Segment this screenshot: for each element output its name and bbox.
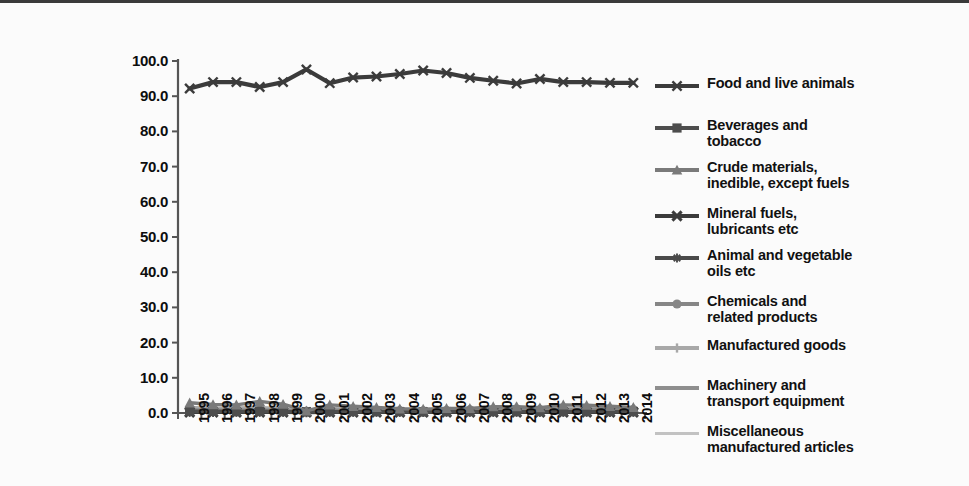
x-axis-tick-label: 2009 (523, 393, 539, 423)
legend-symbol (669, 341, 685, 355)
y-axis-tick-label: 0.0 (106, 404, 168, 421)
legend-label: Machinery and transport equipment (707, 377, 965, 409)
chart-figure: 100.090.080.070.060.050.040.030.020.010.… (0, 0, 969, 486)
legend-line-swatch (655, 432, 699, 435)
x-axis-tick-label: 2013 (616, 393, 632, 423)
x-axis-tick-label: 1997 (242, 393, 258, 423)
x-axis-tick-label: 2007 (476, 393, 492, 423)
y-axis-tick-label: 90.0 (106, 87, 168, 104)
legend-marker-icon (655, 78, 699, 94)
legend-marker-icon (655, 340, 699, 356)
chart-legend: Food and live animalsBeverages and tobac… (655, 55, 965, 455)
legend-item[interactable]: Mineral fuels, lubricants etc (655, 205, 965, 237)
x-axis-tick-label: 2011 (569, 394, 585, 423)
y-axis-tick-label: 70.0 (106, 158, 168, 175)
legend-label: Crude materials, inedible, except fuels (707, 159, 965, 191)
x-axis-tick-label: 2010 (546, 393, 562, 423)
y-axis-tick-label: 50.0 (106, 228, 168, 245)
legend-item[interactable]: Food and live animals (655, 75, 965, 94)
x-axis-tick-label: 2005 (429, 393, 445, 423)
legend-marker-icon (655, 120, 699, 136)
x-axis-tick-label: 2000 (312, 393, 328, 423)
data-point-marker (185, 407, 194, 416)
y-axis-tick-label: 40.0 (106, 263, 168, 280)
legend-label: Food and live animals (707, 75, 965, 91)
legend-item[interactable]: Animal and vegetable oils etc (655, 247, 965, 279)
y-axis-tick-label: 60.0 (106, 193, 168, 210)
legend-symbol (669, 251, 685, 265)
legend-item[interactable]: Beverages and tobacco (655, 117, 965, 149)
legend-item[interactable]: Crude materials, inedible, except fuels (655, 159, 965, 191)
legend-marker-icon (655, 380, 699, 396)
x-axis-tick-label: 2001 (336, 393, 352, 423)
legend-symbol (669, 297, 685, 311)
legend-marker-icon (655, 250, 699, 266)
x-axis-tick-label: 2006 (453, 393, 469, 423)
legend-label: Animal and vegetable oils etc (707, 247, 965, 279)
x-axis-tick-label: 1998 (266, 393, 282, 423)
x-axis-tick-label: 1999 (289, 393, 305, 423)
legend-marker-icon (655, 426, 699, 442)
legend-label: Mineral fuels, lubricants etc (707, 205, 965, 237)
series-0 (185, 65, 638, 93)
x-axis-tick-label: 1996 (219, 393, 235, 423)
x-axis-tick-label: 2004 (406, 393, 422, 423)
legend-label: Miscellaneous manufactured articles (707, 423, 965, 455)
legend-line-swatch (655, 386, 699, 390)
legend-label: Manufactured goods (707, 337, 965, 353)
legend-item[interactable]: Manufactured goods (655, 337, 965, 356)
x-axis-tick-label: 2014 (639, 393, 655, 423)
legend-marker-icon (655, 208, 699, 224)
legend-item[interactable]: Chemicals and related products (655, 293, 965, 325)
x-axis-tick-label: 2012 (593, 393, 609, 423)
x-axis-tick-label: 2002 (359, 393, 375, 423)
y-axis-tick-label: 30.0 (106, 298, 168, 315)
legend-label: Chemicals and related products (707, 293, 965, 325)
y-axis-tick-label: 80.0 (106, 122, 168, 139)
y-axis-tick-label: 10.0 (106, 369, 168, 386)
plot-area: 100.090.080.070.060.050.040.030.020.010.… (0, 3, 660, 486)
data-point-marker (672, 165, 683, 175)
y-axis-tick-label: 20.0 (106, 334, 168, 351)
legend-symbol (669, 121, 685, 135)
x-axis-tick-label: 1995 (196, 393, 212, 423)
legend-symbol (669, 163, 685, 177)
legend-item[interactable]: Machinery and transport equipment (655, 377, 965, 409)
y-axis-tick-label: 100.0 (106, 52, 168, 69)
x-axis-tick-label: 2003 (382, 393, 398, 423)
x-axis-tick-label: 2008 (499, 393, 515, 423)
legend-marker-icon (655, 296, 699, 312)
legend-label: Beverages and tobacco (707, 117, 965, 149)
data-point-marker (672, 123, 681, 132)
data-point-marker (672, 299, 681, 308)
legend-marker-icon (655, 162, 699, 178)
legend-item[interactable]: Miscellaneous manufactured articles (655, 423, 965, 455)
legend-symbol (669, 79, 685, 93)
legend-symbol (669, 209, 685, 223)
